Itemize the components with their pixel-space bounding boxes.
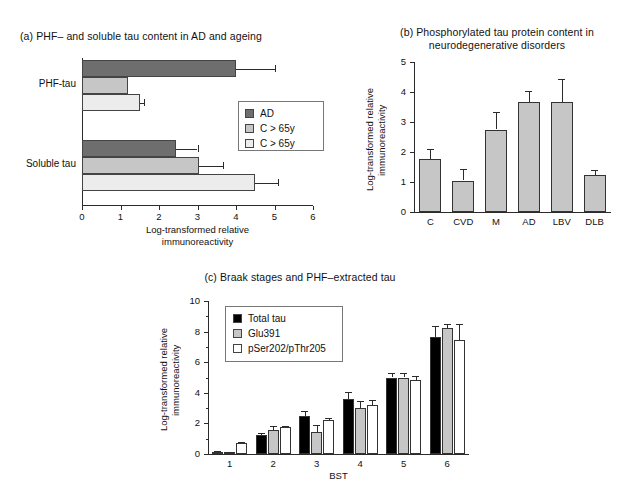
- panel-c-legend: Total tauGlu391pSer202/pThr205: [225, 306, 343, 362]
- panel-b-y-tick: [410, 62, 414, 63]
- error-bar-cap: [388, 373, 395, 374]
- bar: [410, 380, 421, 454]
- error-bar: [255, 183, 278, 184]
- bar: [82, 77, 128, 94]
- error-bar-cap: [223, 162, 224, 169]
- bar: [430, 337, 441, 454]
- error-bar-cap: [460, 169, 467, 170]
- panel-c-y-tick: [206, 408, 208, 409]
- legend-item: AD: [245, 106, 317, 121]
- panel-c-y-tick: [204, 423, 208, 424]
- error-bar-cap: [226, 452, 233, 453]
- bar: [323, 420, 334, 454]
- legend-label: Total tau: [248, 313, 286, 324]
- panel-a-x-tick: [121, 206, 122, 210]
- error-bar: [430, 149, 431, 159]
- panel-c-x-tick-label: 6: [432, 458, 462, 469]
- error-bar-cap: [525, 91, 532, 92]
- error-bar-cap: [275, 65, 276, 72]
- panel-a-x-label: Log-transformed relative immunoreactivit…: [82, 224, 313, 248]
- panel-b-y-tick: [410, 92, 414, 93]
- panel-a-x-label-line1: Log-transformed relative: [146, 224, 249, 235]
- panel-c-y-tick: [204, 332, 208, 333]
- panel-c-y-tick: [206, 439, 208, 440]
- bar: [311, 432, 322, 454]
- bar: [386, 378, 397, 455]
- error-bar-cap: [325, 418, 332, 419]
- error-bar-cap: [357, 401, 364, 402]
- legend-swatch: [233, 314, 242, 323]
- bar: [355, 408, 366, 454]
- panel-c: (c) Braak stages and PHF–extracted tau 0…: [130, 262, 530, 483]
- panel-c-y-tick: [204, 301, 208, 302]
- bar: [82, 140, 176, 157]
- error-bar-cap: [270, 426, 277, 427]
- panel-c-x-tick-label: 3: [302, 458, 332, 469]
- error-bar: [496, 112, 497, 129]
- error-bar-cap: [278, 179, 279, 186]
- bar: [212, 452, 223, 454]
- panel-c-x-tick-label: 5: [389, 458, 419, 469]
- legend-label: C > 65y: [260, 138, 295, 149]
- bar: [299, 416, 310, 454]
- error-bar-cap: [493, 112, 500, 113]
- legend-item: C > 65y: [245, 121, 317, 136]
- error-bar: [529, 91, 530, 102]
- legend-item: Glu391: [233, 326, 335, 341]
- panel-b-y-label-text: Log-transformed relative immunoreactivit…: [364, 89, 387, 192]
- panel-a-x-tick: [313, 206, 314, 210]
- panel-c-x-label: BST: [208, 470, 469, 482]
- panel-a-x-tick-label: 5: [263, 211, 287, 222]
- panel-a-x-tick-label: 3: [186, 211, 210, 222]
- error-bar-cap: [301, 411, 308, 412]
- bar: [256, 435, 267, 454]
- panel-a-x-tick-label: 6: [301, 211, 325, 222]
- bar: [343, 399, 354, 454]
- panel-b-x-tick-label: DLB: [575, 216, 615, 227]
- error-bar-cap: [238, 442, 245, 443]
- error-bar: [459, 324, 460, 340]
- legend-label: C > 65y: [260, 123, 295, 134]
- panel-b-y-axis: [414, 62, 415, 213]
- panel-c-x-axis: [208, 454, 469, 455]
- error-bar: [199, 166, 222, 167]
- bar: [452, 181, 474, 213]
- panel-b-y-tick-label: 5: [384, 56, 406, 67]
- error-bar: [317, 425, 318, 432]
- panel-a-x-tick-label: 2: [147, 211, 171, 222]
- bar: [280, 427, 291, 454]
- bar: [236, 443, 247, 454]
- error-bar-cap: [369, 400, 376, 401]
- panel-c-y-label: Log-transformed relative immunoreactivit…: [158, 310, 184, 450]
- legend-label: Glu391: [248, 328, 280, 339]
- error-bar-cap: [444, 324, 451, 325]
- legend-swatch: [245, 109, 254, 118]
- panel-a-x-label-line2: immunoreactivity: [162, 236, 233, 247]
- panel-c-y-tick: [204, 454, 208, 455]
- panel-b-title-line2: neurodegenerative disorders: [429, 39, 565, 51]
- panel-c-y-label-text: Log-transformed relative immunoreactivit…: [158, 329, 181, 432]
- bar: [82, 174, 255, 191]
- panel-c-y-tick-label: 10: [178, 295, 200, 306]
- error-bar-cap: [345, 392, 352, 393]
- panel-c-x-tick-label: 1: [215, 458, 245, 469]
- panel-b-y-tick: [410, 122, 414, 123]
- error-bar-cap: [258, 433, 265, 434]
- error-bar: [463, 169, 464, 180]
- panel-a-x-tick: [198, 206, 199, 210]
- panel-a-x-tick: [159, 206, 160, 210]
- legend-item: Total tau: [233, 311, 335, 326]
- panel-a-x-tick-label: 1: [109, 211, 133, 222]
- panel-c-title: (c) Braak stages and PHF–extracted tau: [130, 271, 470, 283]
- panel-c-y-tick: [206, 316, 208, 317]
- panel-a-legend: ADC > 65yC > 65y: [238, 101, 324, 151]
- bar: [518, 102, 540, 212]
- legend-swatch: [245, 124, 254, 133]
- bar: [551, 102, 573, 212]
- legend-swatch: [233, 344, 242, 353]
- bar: [442, 328, 453, 454]
- panel-c-x-tick-label: 4: [345, 458, 375, 469]
- legend-label: pSer202/pThr205: [248, 343, 326, 354]
- panel-a-x-tick: [236, 206, 237, 210]
- error-bar: [562, 79, 563, 102]
